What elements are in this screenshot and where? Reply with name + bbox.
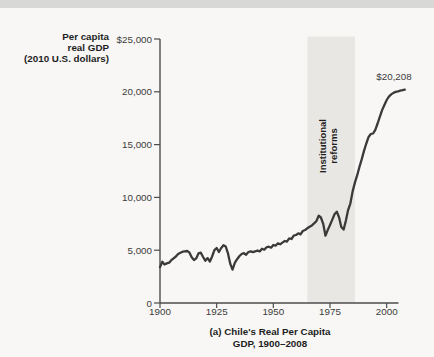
institutional-reforms-band-label: Institutional reforms [318, 119, 339, 173]
chart-caption: (a) Chile's Real Per Capita GDP, 1900–20… [178, 326, 362, 349]
chart-caption-line2: GDP, 1900–2008 [178, 338, 362, 350]
x-tick-label-1925: 1925 [199, 306, 235, 317]
endpoint-value-annotation: $20,208 [363, 71, 425, 82]
x-tick-label-2000: 2000 [369, 306, 405, 317]
x-tick-label-1900: 1900 [142, 306, 178, 317]
band-label-line2: reforms [328, 119, 339, 173]
y-tick-label-20000: 20,000 [82, 86, 152, 97]
x-tick-label-1950: 1950 [255, 306, 291, 317]
x-tick-label-1975: 1975 [312, 306, 348, 317]
y-axis-title-line3: (2010 U.S. dollars) [14, 53, 109, 64]
figure-chile-gdp-chart: Per capita real GDP (2010 U.S. dollars) … [0, 0, 434, 357]
chart-caption-line1: (a) Chile's Real Per Capita [178, 326, 362, 338]
y-tick-label-5000: 5,000 [82, 245, 152, 256]
y-tick-label-15000: 15,000 [82, 139, 152, 150]
y-tick-label-10000: 10,000 [82, 192, 152, 203]
gdp-line-series [160, 90, 405, 270]
y-tick-label-25000: $25,000 [82, 34, 152, 45]
band-label-line1: Institutional [318, 119, 329, 173]
